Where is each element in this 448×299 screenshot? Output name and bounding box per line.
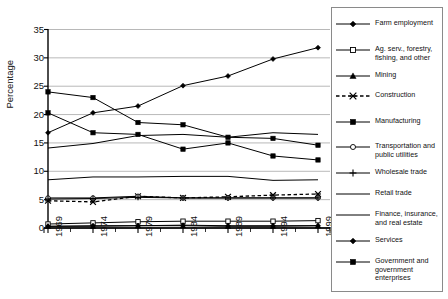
legend-item[interactable]: Mining — [332, 70, 444, 82]
marker-filled-square — [136, 120, 140, 124]
marker-filled-diamond — [136, 104, 141, 109]
marker-filled-diamond — [46, 130, 51, 135]
marker-plus — [270, 195, 276, 201]
marker-filled-diamond — [350, 21, 356, 27]
marker-filled-diamond — [350, 238, 356, 244]
marker-filled-diamond — [181, 83, 186, 88]
line-chart: Percentage 05101520253035 19691974197919… — [0, 0, 448, 299]
legend-swatch-plus-icon — [334, 167, 372, 179]
legend-item-label: Retail trade — [372, 188, 412, 198]
marker-filled-square — [316, 158, 320, 162]
marker-filled-square — [271, 154, 275, 158]
legend-swatch-open-circle-icon — [334, 141, 372, 153]
marker-filled-square — [46, 111, 50, 115]
legend-item-label: Mining — [372, 70, 396, 80]
legend-item[interactable]: Finance, insurance, and real estate — [332, 209, 444, 227]
series-line — [48, 92, 318, 145]
marker-plus — [350, 170, 357, 177]
marker-filled-diamond — [226, 74, 231, 79]
legend-item[interactable]: Farm employment — [332, 18, 444, 30]
series-line — [48, 133, 318, 148]
marker-filled-square — [350, 259, 355, 264]
marker-open-square — [316, 218, 320, 222]
legend-item-label: Finance, insurance, and real estate — [372, 209, 444, 227]
series-finance-insurance-and-real-estate — [48, 133, 318, 148]
legend-item-label: Manufacturing — [372, 116, 421, 126]
marker-filled-square — [91, 95, 95, 99]
marker-filled-square — [181, 123, 185, 127]
legend-item-label: Ag. serv., forestry, fishing, and other — [372, 44, 444, 62]
legend-item-label: Construction — [372, 90, 415, 100]
x-tick-1969: 1969 — [53, 216, 64, 237]
legend-swatch-cross-x-icon — [334, 90, 372, 102]
series-wholesale-trade — [45, 194, 321, 202]
legend-swatch-none-icon — [334, 209, 372, 221]
legend-item-label: Government and government enterprises — [372, 256, 444, 283]
y-tick-25: 25 — [33, 81, 44, 91]
x-tick-1979: 1979 — [143, 216, 154, 237]
y-tick-30: 30 — [33, 53, 44, 63]
series-line — [48, 176, 318, 180]
legend-swatch-filled-diamond-icon — [334, 235, 372, 247]
series-line — [48, 48, 318, 133]
legend-item[interactable]: Services — [332, 235, 444, 247]
series-line — [48, 113, 318, 160]
x-tick-1989: 1989 — [233, 216, 244, 237]
marker-filled-square — [350, 119, 355, 124]
legend-item-label: Services — [372, 235, 403, 245]
y-tick-15: 15 — [33, 138, 44, 148]
legend-item[interactable]: Transportation and public utilities — [332, 141, 444, 159]
chart-legend: Farm employmentAg. serv., forestry, fish… — [331, 7, 443, 292]
x-tick-1974: 1974 — [98, 216, 109, 237]
y-tick-35: 35 — [33, 25, 44, 35]
marker-filled-square — [316, 143, 320, 147]
marker-open-square — [226, 219, 230, 223]
marker-filled-square — [181, 147, 185, 151]
legend-item[interactable]: Government and government enterprises — [332, 256, 444, 283]
legend-item-label: Wholesale trade — [372, 167, 427, 177]
marker-plus — [225, 195, 231, 201]
y-tick-10: 10 — [33, 166, 44, 176]
y-axis-tick-labels: 05101520253035 — [16, 0, 44, 299]
marker-filled-square — [136, 132, 140, 136]
legend-swatch-open-square-icon — [334, 44, 372, 56]
x-tick-1984: 1984 — [188, 216, 199, 237]
y-tick-20: 20 — [33, 110, 44, 120]
legend-item[interactable]: Manufacturing — [332, 116, 444, 128]
legend-swatch-filled-triangle-icon — [334, 70, 372, 82]
series-retail-trade — [48, 176, 318, 180]
marker-open-square — [350, 47, 355, 52]
marker-open-circle — [350, 144, 355, 149]
legend-swatch-none-icon — [334, 188, 372, 200]
y-tick-0: 0 — [39, 223, 44, 233]
x-tick-1994: 1994 — [278, 216, 289, 237]
series-farm-employment — [46, 45, 321, 135]
legend-item-label: Farm employment — [372, 18, 433, 28]
legend-swatch-filled-diamond-icon — [334, 18, 372, 30]
marker-open-square — [271, 219, 275, 223]
marker-filled-square — [91, 131, 95, 135]
marker-filled-diamond — [271, 56, 276, 61]
marker-filled-square — [46, 90, 50, 94]
legend-swatch-filled-square-icon — [334, 256, 372, 268]
marker-filled-diamond — [316, 45, 321, 50]
series-manufacturing — [46, 90, 320, 148]
y-axis-title: Percentage — [4, 95, 15, 109]
legend-item-label: Transportation and public utilities — [372, 141, 444, 159]
legend-swatch-filled-square-icon — [334, 116, 372, 128]
marker-filled-square — [226, 141, 230, 145]
marker-filled-square — [271, 136, 275, 140]
legend-item[interactable]: Retail trade — [332, 188, 444, 200]
legend-item[interactable]: Ag. serv., forestry, fishing, and other — [332, 44, 444, 62]
marker-cross-x — [350, 93, 357, 100]
legend-item[interactable]: Wholesale trade — [332, 167, 444, 179]
series-government-and-government-enterprises — [46, 111, 320, 162]
y-tick-5: 5 — [39, 195, 44, 205]
legend-item[interactable]: Construction — [332, 90, 444, 102]
